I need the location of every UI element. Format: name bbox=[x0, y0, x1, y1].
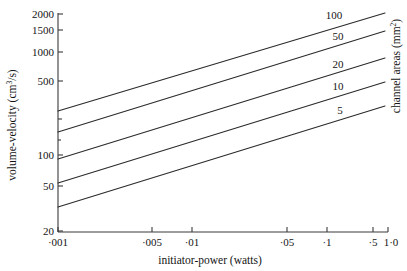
y-axis-title-main: volume-velocity (cm bbox=[6, 85, 19, 181]
y-tick-label-100: 100 bbox=[38, 149, 55, 161]
svg-text:volume-velocity (cm3/s): volume-velocity (cm3/s) bbox=[5, 69, 19, 181]
series-label-10: 10 bbox=[333, 80, 345, 92]
y-tick-label-50: 50 bbox=[43, 180, 55, 192]
data-line-5 bbox=[58, 106, 385, 207]
x-tick-label-001: ·001 bbox=[48, 236, 68, 248]
series-label-100: 100 bbox=[326, 9, 343, 21]
y2-axis-title: channel areas (mm2) bbox=[389, 19, 403, 114]
series-label-50: 50 bbox=[333, 30, 345, 42]
x-tick-marks bbox=[58, 227, 388, 232]
chart-figure: 2000 1500 1000 500 100 50 20 ·001 ·005 ·… bbox=[0, 0, 407, 271]
x-tick-label-005: ·005 bbox=[142, 236, 163, 248]
y-axis-title: volume-velocity (cm3/s) bbox=[5, 69, 19, 181]
y-axis-title-tail: /s) bbox=[6, 69, 19, 81]
y-tick-label-2000: 2000 bbox=[32, 8, 55, 20]
data-line-20 bbox=[58, 58, 385, 159]
svg-text:channel areas (mm2): channel areas (mm2) bbox=[389, 19, 403, 114]
x-tick-label-01: ·01 bbox=[185, 236, 200, 248]
series-label-20: 20 bbox=[333, 58, 345, 70]
x-tick-label-05: ·05 bbox=[280, 236, 295, 248]
y-tick-label-1500: 1500 bbox=[32, 24, 55, 36]
data-lines bbox=[58, 13, 385, 207]
series-label-5: 5 bbox=[337, 104, 343, 116]
x-tick-label-1: ·1 bbox=[322, 236, 331, 248]
x-tick-label-5: ·5 bbox=[368, 236, 378, 248]
line-chart-plot: 2000 1500 1000 500 100 50 20 ·001 ·005 ·… bbox=[0, 0, 407, 271]
x-tick-label-10: 1·0 bbox=[384, 236, 399, 248]
y-tick-marks bbox=[58, 14, 63, 231]
y2-axis-title-tail: ) bbox=[390, 19, 403, 23]
data-line-10 bbox=[58, 82, 385, 183]
y2-axis-title-main: channel areas (mm bbox=[390, 26, 403, 113]
y-tick-label-500: 500 bbox=[38, 75, 55, 87]
y-tick-label-1000: 1000 bbox=[32, 46, 55, 58]
x-axis-title: initiator-power (watts) bbox=[158, 254, 262, 267]
